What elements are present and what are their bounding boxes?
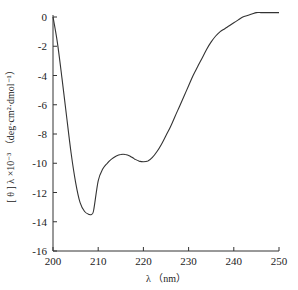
x-tick-label: 240 — [226, 255, 243, 267]
y-tick-label: 0 — [42, 11, 48, 23]
x-tick-label: 230 — [180, 255, 197, 267]
cd-spectrum-chart: 0-2-4-6-8-10-12-14-16200210220230240250 … — [0, 0, 298, 290]
y-tick-label: -4 — [38, 70, 48, 82]
x-tick-label: 210 — [90, 255, 107, 267]
y-tick-label: -6 — [38, 99, 48, 111]
ticks: 0-2-4-6-8-10-12-14-16200210220230240250 — [32, 11, 287, 267]
spectrum-curve — [53, 13, 279, 215]
y-tick-label: -12 — [32, 187, 47, 199]
y-tick-label: -2 — [38, 40, 47, 52]
x-tick-label: 200 — [45, 255, 62, 267]
y-tick-label: -14 — [32, 216, 47, 228]
y-axis-label: [ θ ] λ ×10⁻³ （deg·cm²·dmol⁻¹） — [5, 65, 16, 202]
x-axis-label: λ （nm） — [146, 273, 186, 284]
y-tick-label: -10 — [32, 157, 47, 169]
y-tick-label: -8 — [38, 128, 48, 140]
x-tick-label: 250 — [271, 255, 288, 267]
x-tick-label: 220 — [135, 255, 152, 267]
axes — [53, 15, 279, 251]
